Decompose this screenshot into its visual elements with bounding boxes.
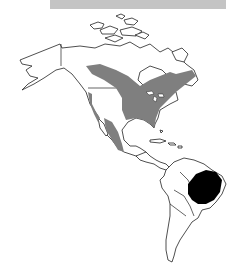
north-america (20, 42, 198, 158)
arctic-islands (90, 14, 149, 42)
caribbean-islands (150, 130, 182, 148)
central-america (136, 152, 170, 170)
range-map (0, 0, 234, 275)
